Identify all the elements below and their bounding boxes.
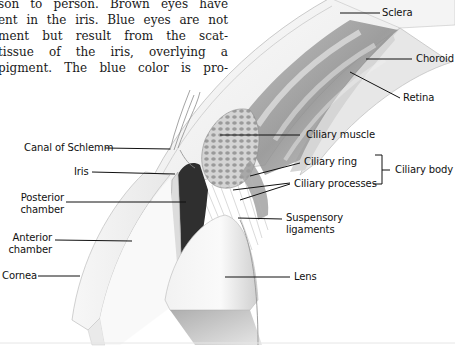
label-choroid: Choroid xyxy=(416,53,454,65)
label-ciliary-ring: Ciliary ring xyxy=(304,156,357,168)
label-iris: Iris xyxy=(74,166,89,178)
label-ciliary-processes: Ciliary processes xyxy=(294,178,377,190)
eye-anatomy-illustration xyxy=(0,0,455,348)
label-line: chamber xyxy=(4,244,52,256)
label-line: chamber xyxy=(16,204,64,216)
label-line: Anterior xyxy=(4,232,52,244)
label-cornea: Cornea xyxy=(2,270,37,282)
label-ciliary-muscle: Ciliary muscle xyxy=(306,129,375,141)
label-sclera: Sclera xyxy=(382,7,412,19)
label-line: Posterior xyxy=(16,192,64,204)
label-posterior-chamber: Posterior chamber xyxy=(16,192,64,216)
label-line: Suspensory xyxy=(286,212,343,224)
label-line: ligaments xyxy=(286,224,343,236)
label-ciliary-body: Ciliary body xyxy=(395,164,453,176)
label-retina: Retina xyxy=(403,92,434,104)
label-anterior-chamber: Anterior chamber xyxy=(4,232,52,256)
label-lens: Lens xyxy=(294,271,317,283)
label-suspensory-ligaments: Suspensory ligaments xyxy=(286,212,343,236)
label-canal-of-schlemm: Canal of Schlemm xyxy=(24,142,113,154)
